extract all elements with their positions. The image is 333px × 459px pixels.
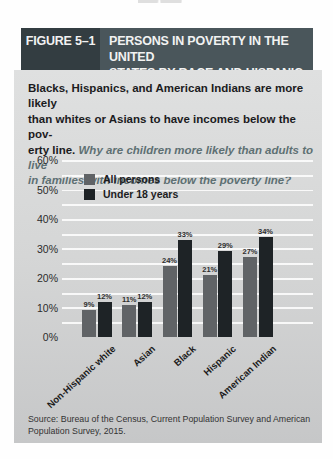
intro-line-1: Blacks, Hispanics, and American Indians … <box>28 81 314 112</box>
bar-under18-4 <box>218 251 232 337</box>
bar-under18-3 <box>178 240 192 337</box>
figure-title-line-1: PERSONS IN POVERTY IN THE UNITED <box>109 33 313 65</box>
category-label-2: Asian <box>131 343 158 368</box>
legend-swatch-all-persons <box>84 174 95 185</box>
bar-under18-2 <box>138 302 152 337</box>
page-crop-artifact <box>138 0 182 3</box>
bar-all-3 <box>163 266 177 337</box>
source-line-2: Population Survey, 2015. <box>28 425 314 437</box>
value-label: 12% <box>92 292 118 301</box>
y-tick-30: 30% <box>14 243 58 255</box>
source-note: Source: Bureau of the Census, Current Po… <box>28 413 314 438</box>
y-tick-50: 50% <box>14 184 58 196</box>
legend-item-all-persons: All persons <box>84 173 178 185</box>
bar-chart: 0%10%20%30%40%50%60% All persons Under 1… <box>14 160 322 420</box>
legend-swatch-under-18 <box>84 189 95 200</box>
legend-label-under-18: Under 18 years <box>103 188 178 200</box>
y-tick-10: 10% <box>14 302 58 314</box>
category-label-1: Non-Hispanic white <box>44 343 117 410</box>
bar-under18-1 <box>98 302 112 337</box>
value-label: 33% <box>172 230 198 239</box>
bar-under18-5 <box>259 237 273 337</box>
source-line-1: Source: Bureau of the Census, Current Po… <box>28 413 314 425</box>
y-tick-20: 20% <box>14 272 58 284</box>
bar-all-1 <box>82 310 96 337</box>
legend-item-under-18: Under 18 years <box>84 188 178 200</box>
bar-all-5 <box>243 257 257 337</box>
category-label-4: Hispanic <box>201 343 238 378</box>
intro-line-2: than whites or Asians to have incomes be… <box>28 112 314 143</box>
category-label-3: Black <box>172 343 198 368</box>
y-tick-0: 0% <box>14 331 58 343</box>
figure-panel: Blacks, Hispanics, and American Indians … <box>14 70 322 443</box>
plot-area: All persons Under 18 years 9%11%24%21%27… <box>62 160 313 337</box>
value-label: 34% <box>253 227 279 236</box>
value-label: 12% <box>132 292 158 301</box>
legend-label-all-persons: All persons <box>103 173 160 185</box>
y-tick-40: 40% <box>14 213 58 225</box>
value-label: 29% <box>212 241 238 250</box>
figure-number-label: FIGURE 5–1 <box>21 28 100 70</box>
y-tick-60: 60% <box>14 154 58 166</box>
bar-all-2 <box>122 305 136 337</box>
chart-legend: All persons Under 18 years <box>84 173 178 203</box>
y-axis: 0%10%20%30%40%50%60% <box>14 160 58 343</box>
figure-header: FIGURE 5–1 PERSONS IN POVERTY IN THE UNI… <box>21 28 313 70</box>
figure-title: PERSONS IN POVERTY IN THE UNITED STATES … <box>100 28 313 70</box>
x-axis: Non-Hispanic whiteAsianBlackHispanicAmer… <box>62 337 313 417</box>
bar-all-4 <box>203 275 217 337</box>
